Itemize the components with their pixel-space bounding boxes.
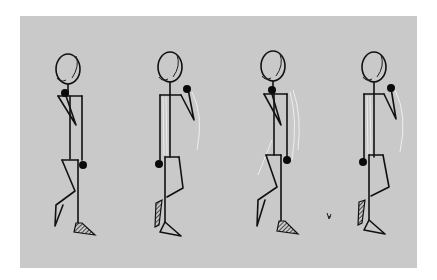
far-hand-icon [155,160,163,168]
far-hand-icon [79,161,87,169]
stick-figure-frame-4: Frame 4 - passing pose, arm raised [358,52,403,234]
raised-hand-icon [387,84,395,92]
near-hand-icon [268,86,276,94]
head-icon [261,51,285,81]
head-icon [362,52,386,82]
raised-hand-icon [183,85,191,93]
far-hand-icon [283,156,291,164]
far-hand-icon [359,158,367,166]
ink-smudge [327,213,331,219]
stick-figure-frame-3: Frame 3 - contact pose, hand at chest [257,51,299,234]
walk-cycle-illustration: Frame 1 - contact pose, hand at chest Fr… [0,0,437,280]
stick-figure-frame-2: Frame 2 - passing pose, arm raised [155,52,200,236]
head-icon [158,52,182,82]
stick-figure-frame-1: Frame 1 - contact pose, hand at chest [55,54,95,235]
head-icon [56,54,80,84]
